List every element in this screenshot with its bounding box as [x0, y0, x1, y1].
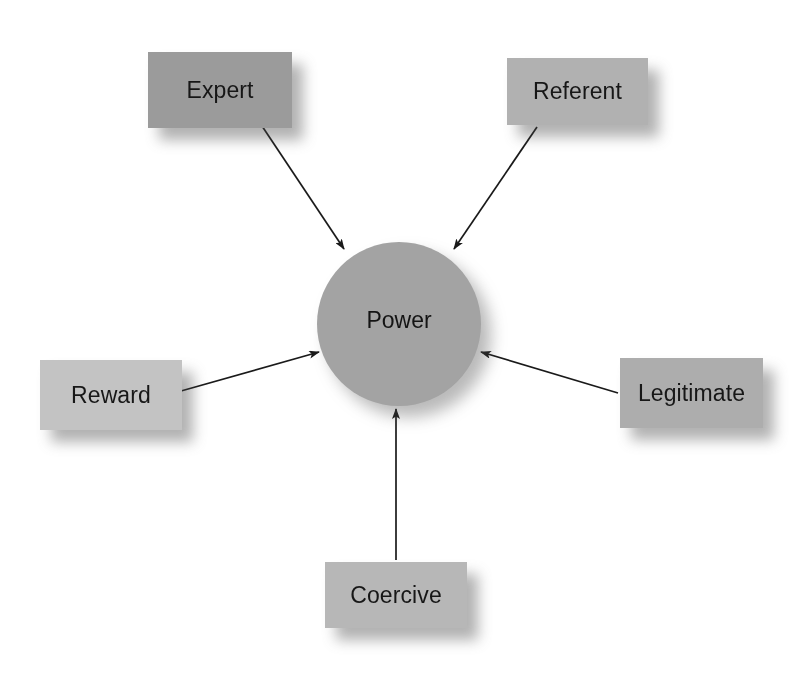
node-expert[interactable]: Expert	[148, 52, 292, 128]
node-power[interactable]: Power	[317, 242, 481, 406]
power-diagram: Expert Referent Reward Legitimate Coerci…	[0, 0, 811, 677]
node-coercive[interactable]: Coercive	[325, 562, 467, 628]
node-reward-label: Reward	[71, 384, 151, 407]
node-reward[interactable]: Reward	[40, 360, 182, 430]
node-expert-label: Expert	[186, 79, 253, 102]
node-coercive-label: Coercive	[350, 584, 442, 607]
connector-legitimate-to-power	[481, 352, 618, 393]
connector-reward-to-power	[181, 352, 319, 391]
node-legitimate[interactable]: Legitimate	[620, 358, 763, 428]
node-referent-label: Referent	[533, 80, 622, 103]
connector-referent-to-power	[454, 127, 537, 249]
node-referent[interactable]: Referent	[507, 58, 648, 125]
node-legitimate-label: Legitimate	[638, 382, 745, 405]
node-power-label: Power	[366, 307, 431, 334]
connector-expert-to-power	[262, 126, 344, 249]
